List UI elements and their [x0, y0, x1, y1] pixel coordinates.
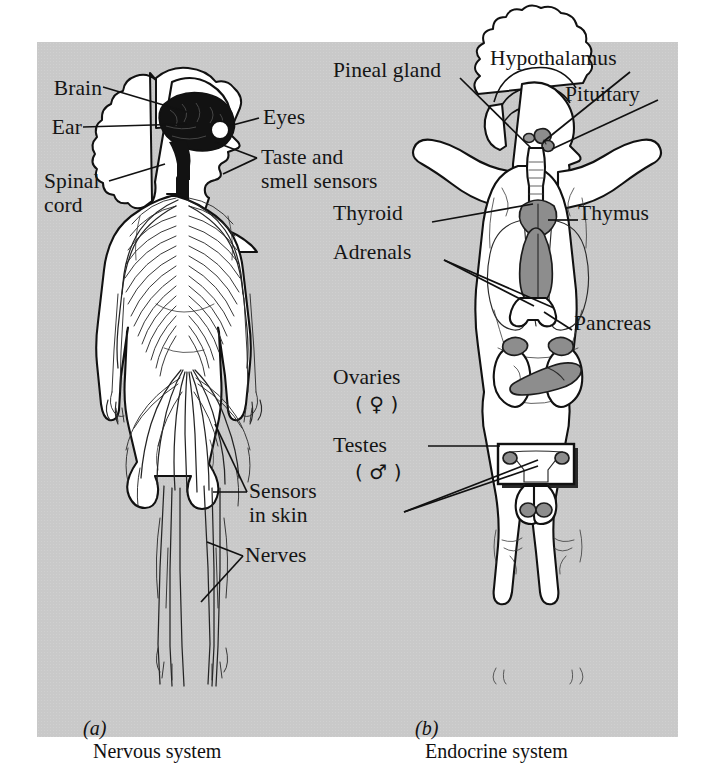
label-pineal-gland: Pineal gland: [333, 58, 441, 82]
label-sensors-in-skin-line2: in skin: [249, 503, 308, 527]
caption-endocrine-letter: (b): [415, 717, 438, 739]
label-adrenals: Adrenals: [333, 240, 411, 264]
caption-nervous-letter: (a): [83, 717, 106, 739]
label-hypothalamus: Hypothalamus: [490, 46, 617, 70]
caption-nervous: (a) Nervous system: [63, 694, 221, 777]
label-sensors-in-skin-line1: Sensors: [249, 479, 317, 503]
label-brain: Brain: [38, 76, 102, 100]
label-pancreas: Pancreas: [574, 311, 651, 335]
caption-nervous-text: Nervous system: [93, 740, 221, 762]
label-ovaries: Ovaries: [333, 365, 401, 389]
label-thymus: Thymus: [578, 201, 649, 225]
label-nerves: Nerves: [245, 543, 307, 567]
label-pituitary: Pituitary: [565, 82, 640, 106]
endocrine-leader-lines: [330, 42, 678, 737]
caption-endocrine: (b) Endocrine system: [395, 694, 568, 777]
label-testes-symbol: ( ♂ ): [355, 460, 402, 484]
label-spinal-cord-line2: cord: [44, 193, 83, 217]
label-eyes: Eyes: [263, 105, 305, 129]
label-ear: Ear: [38, 115, 82, 139]
caption-endocrine-text: Endocrine system: [425, 740, 568, 762]
label-ovaries-symbol: ( ♀ ): [355, 392, 398, 416]
figure-root: Brain Ear Spinal cord Eyes Taste and sme…: [0, 0, 708, 777]
label-spinal-cord-line1: Spinal: [44, 169, 100, 193]
label-testes: Testes: [333, 433, 387, 457]
label-thyroid: Thyroid: [333, 201, 403, 225]
